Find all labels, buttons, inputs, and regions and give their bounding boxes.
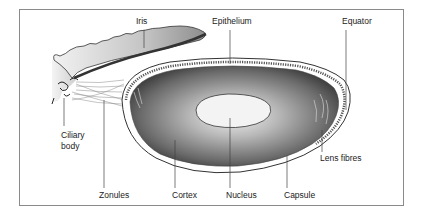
label-ciliary-body-line1: Ciliary [61, 130, 85, 140]
label-epithelium: Epithelium [212, 16, 252, 26]
label-ciliary-body-line2: body [61, 141, 79, 151]
label-capsule: Capsule [284, 190, 315, 200]
zonules [72, 80, 124, 106]
label-iris: Iris [136, 16, 147, 26]
lens-nucleus [196, 94, 271, 128]
label-cortex: Cortex [172, 190, 197, 200]
label-nucleus: Nucleus [226, 190, 257, 200]
lens-diagram [0, 0, 421, 221]
label-zonules: Zonules [99, 190, 129, 200]
label-lens-fibres: Lens fibres [320, 153, 362, 163]
label-equator: Equator [342, 16, 372, 26]
